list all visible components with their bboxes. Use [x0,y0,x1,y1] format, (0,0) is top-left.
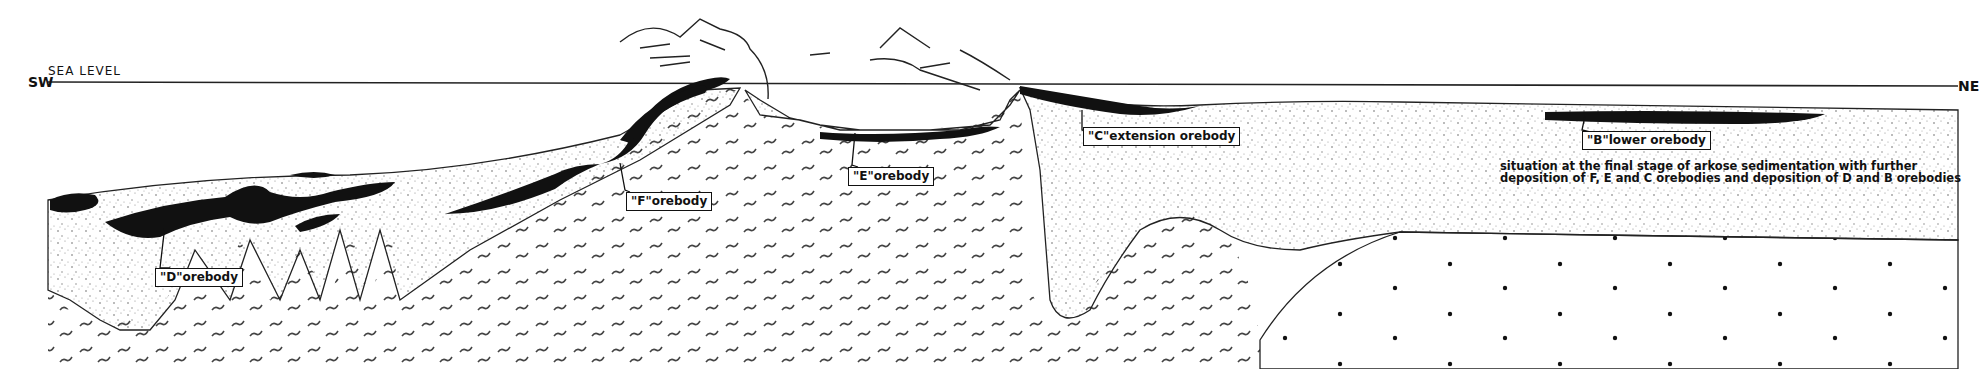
orebody-label-f: "F"orebody [626,192,712,211]
island-sketch [620,19,1010,99]
orebody-label-d: "D"orebody [155,268,243,287]
diagram-caption: situation at the final stage of arkose s… [1500,160,1970,184]
orebody-label-e: "E"orebody [848,167,934,186]
orebody-label-b: "B"lower orebody [1582,131,1711,150]
sea-level-line [48,82,1958,86]
granite-basement [1260,232,1958,369]
sea-level-label: SEA LEVEL [48,64,121,78]
orebody-label-c: "C"extension orebody [1083,127,1240,146]
direction-label-ne: NE [1958,78,1979,94]
